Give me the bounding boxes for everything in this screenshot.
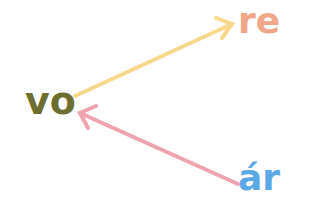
word-re: re <box>238 3 280 39</box>
arrow-vo-to-re <box>75 18 232 96</box>
arrow-ar-to-vo <box>80 106 238 184</box>
word-vo: vo <box>25 82 76 120</box>
word-ar: ár <box>238 160 280 196</box>
